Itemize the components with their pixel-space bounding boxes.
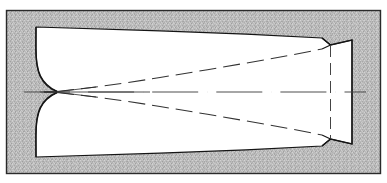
nozzle-diagram [0, 0, 387, 183]
figure-container [0, 0, 387, 183]
